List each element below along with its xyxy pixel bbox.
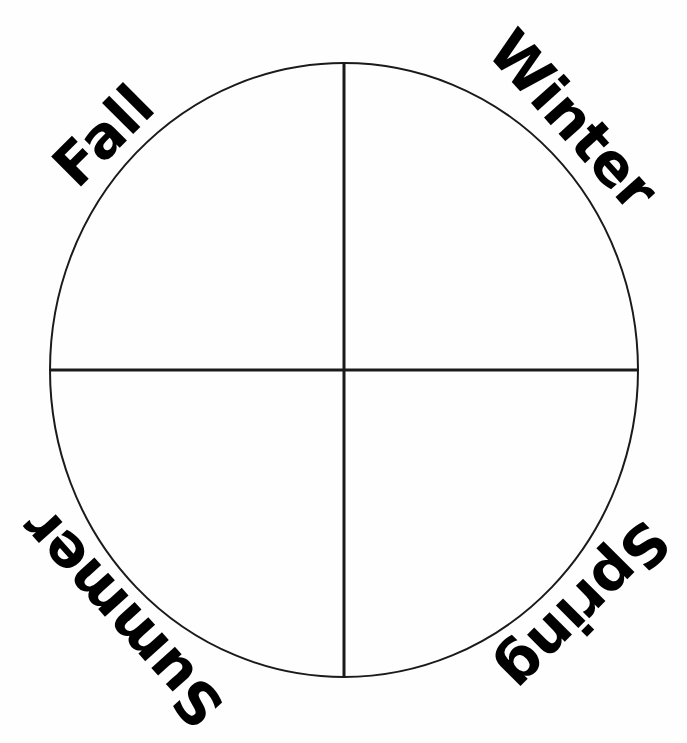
seasons-wheel-diagram: Fall Winter Spring Summer bbox=[0, 0, 687, 743]
